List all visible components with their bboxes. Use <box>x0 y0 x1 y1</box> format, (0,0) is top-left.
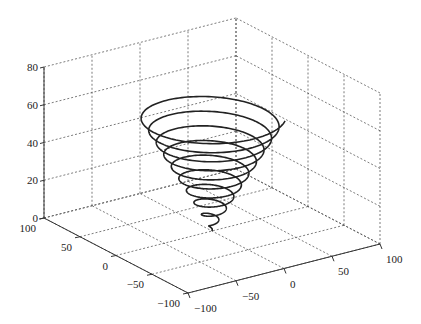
tick-labels: 020406080−100−50050100−100−50050100 <box>20 61 404 314</box>
axis-line <box>183 293 188 294</box>
z-tick-label: 20 <box>27 174 39 186</box>
conical-spiral-3d-plot: 020406080−100−50050100−100−50050100 <box>0 0 421 324</box>
y-tick-label: 0 <box>103 260 109 272</box>
z-tick-label: 80 <box>27 61 39 73</box>
axis-line <box>147 274 152 275</box>
spiral-curve <box>141 97 285 231</box>
axis-line <box>40 180 44 181</box>
axis-line <box>75 237 80 238</box>
axis-line <box>380 244 382 249</box>
x-tick-label: 0 <box>290 278 296 290</box>
axis-line <box>284 269 286 274</box>
axis-line <box>188 293 190 298</box>
z-tick-label: 40 <box>27 137 39 149</box>
x-tick-label: 100 <box>386 253 403 265</box>
y-tick-label: −100 <box>157 297 180 309</box>
axis-line <box>332 256 334 261</box>
axis-line <box>40 67 44 68</box>
axes <box>39 67 382 298</box>
axis-line <box>111 256 116 257</box>
x-tick-label: 50 <box>338 265 350 277</box>
axis-line <box>40 143 44 144</box>
x-tick-label: −100 <box>194 302 217 314</box>
grid-line <box>236 56 380 131</box>
axis-line <box>40 105 44 106</box>
z-tick-label: 60 <box>27 99 39 111</box>
grid-line <box>236 169 380 244</box>
axis-line <box>39 218 44 219</box>
y-tick-label: 100 <box>20 222 37 234</box>
y-tick-label: −50 <box>127 278 145 290</box>
x-tick-label: −50 <box>242 290 260 302</box>
y-tick-label: 50 <box>61 241 73 253</box>
axis-line <box>236 281 238 286</box>
